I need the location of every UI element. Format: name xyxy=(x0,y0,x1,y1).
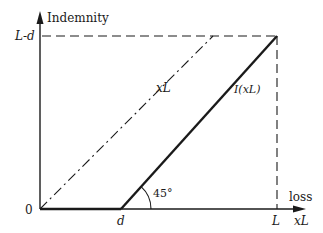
y-axis-label: Indemnity xyxy=(47,11,109,25)
line-indemnity-label: I(xL) xyxy=(233,83,260,96)
x-axis-arrow-icon xyxy=(293,206,306,213)
line-xL-label: xL xyxy=(156,81,171,95)
x-tick-L-label: L xyxy=(271,214,280,228)
x-axis-label: loss xyxy=(289,190,312,204)
angle-label: 45° xyxy=(153,187,173,200)
line-xL xyxy=(40,36,213,209)
y-tick-label: L-d xyxy=(14,29,35,43)
line-indemnity xyxy=(121,36,277,209)
indemnity-diagram: Indemnity L-d 0 d L loss xL xL I(xL) 45° xyxy=(0,0,323,233)
x-axis-variable: xL xyxy=(294,214,309,228)
angle-arc xyxy=(141,187,151,209)
y-axis-arrow-icon xyxy=(37,11,44,24)
origin-label: 0 xyxy=(25,203,33,217)
x-tick-d-label: d xyxy=(117,214,125,228)
